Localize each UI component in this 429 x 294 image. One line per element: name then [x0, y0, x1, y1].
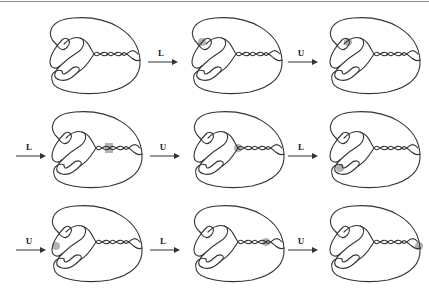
highlighted-crossing [105, 143, 113, 153]
knot-diagram-4 [40, 108, 150, 190]
knot-diagram-2 [180, 14, 290, 96]
knot-diagram-5 [182, 108, 292, 190]
move-label: U [16, 236, 42, 246]
move-label: L [16, 142, 42, 152]
move-label: L [148, 48, 174, 58]
knot-diagram-7 [40, 202, 150, 284]
move-arrow-8: U [288, 236, 322, 258]
knot-diagram-6 [318, 108, 428, 190]
move-arrow-1: L [148, 48, 182, 70]
move-arrow-5: L [288, 142, 322, 164]
move-label: U [288, 48, 314, 58]
move-label: U [288, 236, 314, 246]
knot-diagram-8 [182, 202, 292, 284]
move-label: L [288, 142, 314, 152]
knot-diagram-9 [318, 202, 428, 284]
knot-diagram-3 [318, 14, 428, 96]
move-arrow-4: U [150, 142, 184, 164]
top-rule [0, 1, 429, 2]
move-arrow-7: L [150, 236, 184, 258]
move-label: U [150, 142, 176, 152]
knot-diagram-1 [38, 14, 148, 96]
move-arrow-2: U [288, 48, 322, 70]
move-label: L [150, 236, 176, 246]
